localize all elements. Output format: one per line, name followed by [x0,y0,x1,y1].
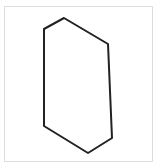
diagram-canvas [0,0,157,165]
hexagon-shape [44,18,112,153]
